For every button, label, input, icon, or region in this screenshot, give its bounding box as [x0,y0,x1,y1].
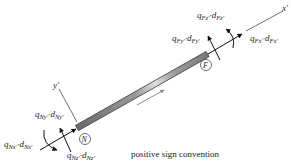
near-axial-arrow [40,129,76,150]
far-moment-arrow [226,29,234,48]
far-moment-label: qFz'·dFz' [197,10,225,21]
far-axial-arrow [208,34,242,54]
near-node-label: N [81,135,88,144]
far-node-label: F [202,61,208,70]
caption: positive sign convention [131,149,219,159]
near-axial-label: qNx'·dNx' [4,139,33,150]
near-shear-label: qNy'·dNy' [35,109,64,120]
near-moment-label: qNz'·dNz' [67,150,95,161]
member-diagram: x' y' qFz'·dFz' qFy'·dFy' qFx'·dFx' F qN… [0,0,291,166]
far-shear-label: qFy'·dFy' [172,33,200,44]
x-axis-label: x' [281,3,289,13]
x-axis-line [246,11,283,31]
member [76,52,210,131]
far-axial-label: qFx'·dFx' [250,33,278,44]
near-shear-arrow [60,128,71,152]
y-axis-label: y' [52,80,60,90]
